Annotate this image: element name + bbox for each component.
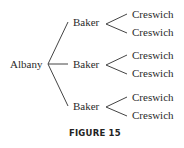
node-creswich-3-1: Creswich — [132, 91, 174, 103]
node-baker-3: Baker — [73, 100, 99, 112]
edge-baker-3-creswich-1 — [106, 97, 127, 107]
node-albany: Albany — [10, 58, 42, 70]
edge-baker-2-creswich-1 — [106, 55, 127, 65]
edge-baker-1-creswich-2 — [106, 24, 127, 33]
node-baker-2: Baker — [73, 58, 99, 70]
node-creswich-3-2: Creswich — [132, 109, 174, 121]
node-baker-1: Baker — [73, 16, 99, 28]
edge-baker-2-creswich-2 — [106, 65, 127, 74]
edge-baker-3-creswich-2 — [106, 107, 127, 116]
tree-diagram: Albany Baker Baker Baker Creswich Creswi… — [0, 0, 184, 148]
edge-albany-baker-3 — [48, 64, 68, 106]
edge-albany-baker-1 — [48, 22, 68, 64]
node-creswich-1-1: Creswich — [132, 8, 174, 20]
node-creswich-1-2: Creswich — [132, 26, 174, 38]
node-creswich-2-2: Creswich — [132, 67, 174, 79]
node-creswich-2-1: Creswich — [132, 49, 174, 61]
figure-caption: FIGURE 15 — [69, 128, 121, 138]
edge-baker-1-creswich-1 — [106, 14, 127, 24]
